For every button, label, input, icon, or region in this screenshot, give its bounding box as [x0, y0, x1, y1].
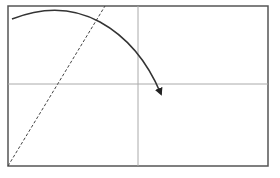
diagram-canvas [0, 0, 280, 178]
